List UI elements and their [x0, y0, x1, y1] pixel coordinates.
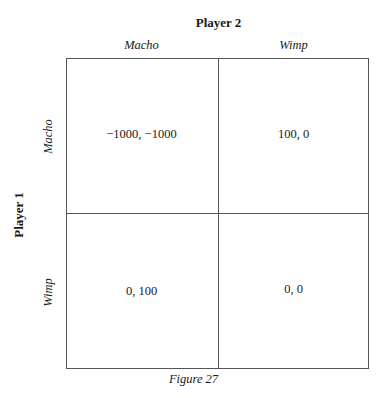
cell-wimp-wimp: 0, 0: [218, 282, 369, 297]
row-label-wimp: Wimp: [41, 233, 56, 353]
figure-caption: Figure 27: [0, 372, 387, 387]
cell-macho-wimp: 100, 0: [218, 127, 369, 142]
row-label-macho: Macho: [41, 77, 56, 197]
cell-wimp-macho: 0, 100: [66, 284, 217, 299]
column-label-macho: Macho: [66, 38, 217, 53]
player-2-label: Player 2: [0, 15, 387, 31]
cell-macho-macho: −1000, −1000: [66, 127, 217, 142]
matrix-horizontal-divider: [66, 213, 369, 214]
player-1-label: Player 1: [11, 155, 27, 275]
column-label-wimp: Wimp: [218, 38, 369, 53]
